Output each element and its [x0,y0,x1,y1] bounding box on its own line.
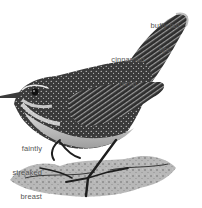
annotation-faintly-streaked-breast: faintly streaked breast [2,129,42,208]
eye [32,89,39,96]
annotation-buffy-tail-tips: buffy tail tips [144,6,186,70]
beak [0,92,20,98]
bird-illustration-figure: buffy tail tips cinnamon rump faintly st… [0,0,202,208]
annotation-cinnamon-rump: cinnamon rump [106,40,150,104]
